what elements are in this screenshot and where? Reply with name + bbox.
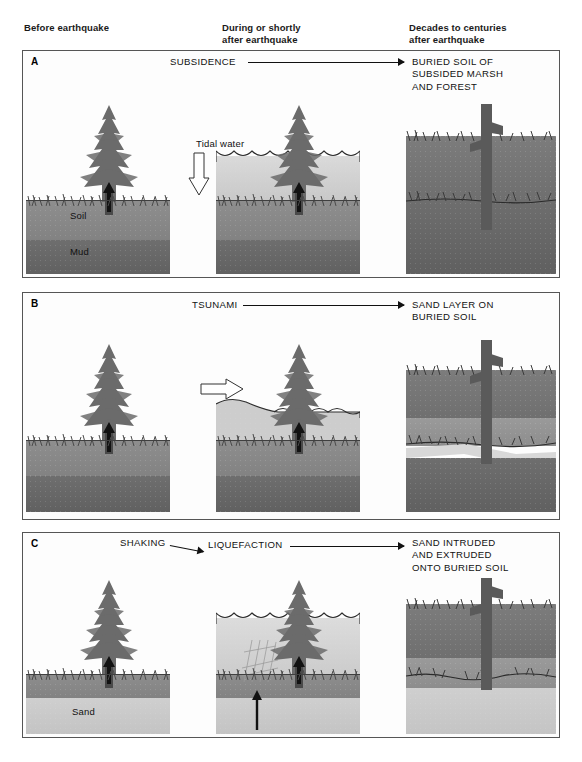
panel-a-scene-before: Soil Mud	[26, 104, 170, 274]
panel-b-scene-during	[216, 340, 360, 512]
panel-a-scene-during	[216, 104, 360, 274]
panel-c-process-label-shaking: SHAKING	[120, 537, 166, 549]
terrain-label-mud: Mud	[70, 246, 89, 257]
panel-b-scene-after	[406, 340, 556, 512]
panel-a-letter: A	[31, 56, 38, 67]
column-header-during: During or shortly after earthquake	[222, 22, 301, 45]
panel-a-outcome-label: BURIED SOIL OF SUBSIDED MARSH AND FOREST	[412, 56, 503, 93]
panel-c-outcome-label: SAND INTRUDED AND EXTRUDED ONTO BURIED S…	[412, 537, 509, 574]
panel-c-scene-during	[216, 578, 360, 734]
scene-label-tidal-water: Tidal water	[196, 138, 244, 149]
terrain-label-soil: Soil	[70, 210, 87, 221]
panel-a-flow-arrow	[248, 57, 404, 67]
panel-b-scene-before	[26, 340, 170, 512]
dead-tree-snag	[470, 340, 504, 470]
dead-tree-snag	[470, 578, 504, 696]
terrain-label-sand: Sand	[72, 706, 95, 717]
dead-tree-snag	[470, 104, 504, 236]
panel-c-scene-after	[406, 578, 556, 734]
panel-b-letter: B	[31, 298, 38, 309]
panel-c-flow-arrow	[290, 541, 404, 551]
diagram-canvas: Before earthquake During or shortly afte…	[0, 0, 582, 762]
panel-a-scene-after	[406, 104, 556, 274]
down-block-arrow	[188, 152, 210, 200]
liquefaction-up-arrow	[250, 690, 264, 734]
panel-a-process-label: SUBSIDENCE	[170, 56, 236, 68]
panel-c-letter: C	[31, 538, 38, 549]
panel-c-scene-before: Sand	[26, 578, 170, 734]
column-header-before: Before earthquake	[24, 22, 109, 34]
panel-b-outcome-label: SAND LAYER ON BURIED SOIL	[412, 299, 494, 324]
panel-b-process-label: TSUNAMI	[192, 299, 238, 311]
panel-b-flow-arrow	[243, 300, 404, 310]
panel-c-process-label-liquefaction: LIQUEFACTION	[208, 539, 283, 551]
column-header-after: Decades to centuries after earthquake	[409, 22, 507, 45]
